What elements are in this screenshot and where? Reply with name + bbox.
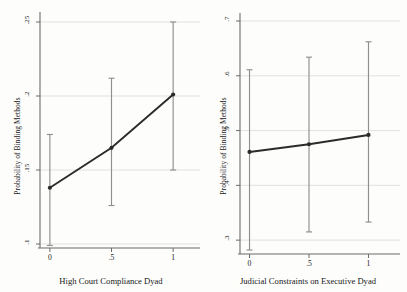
data-point-marker bbox=[109, 146, 113, 150]
x-axis-title-left: High Court Compliance Dyad bbox=[0, 276, 204, 286]
y-tick-label: .4 bbox=[220, 179, 234, 187]
plot-area-left bbox=[0, 0, 204, 292]
x-tick-label: .5 bbox=[306, 259, 312, 268]
data-point-marker bbox=[247, 150, 251, 154]
data-point-marker bbox=[171, 92, 175, 96]
x-axis-title-right: Judicial Constraints on Executive Dyad bbox=[203, 276, 407, 286]
y-tick-label: .1 bbox=[20, 238, 34, 246]
data-point-marker bbox=[366, 133, 370, 137]
x-tick-label: 0 bbox=[48, 253, 52, 262]
y-axis-title-right: Probability of Binding Methods bbox=[219, 66, 228, 226]
y-tick-label: .3 bbox=[220, 234, 234, 242]
chart-panel-left: Probability of Binding Methods High Cour… bbox=[0, 0, 204, 292]
data-point-marker bbox=[48, 186, 52, 190]
plot-area-right bbox=[203, 0, 407, 292]
x-tick-label: 1 bbox=[171, 253, 175, 262]
y-tick-label: .15 bbox=[20, 164, 34, 172]
y-tick-label: .6 bbox=[220, 70, 234, 78]
data-point-marker bbox=[307, 142, 311, 146]
chart-panel-right: Probability of Binding Methods Judicial … bbox=[203, 0, 407, 292]
y-tick-label: .5 bbox=[220, 125, 234, 133]
figure-container: Probability of Binding Methods High Cour… bbox=[0, 0, 407, 292]
x-tick-label: .5 bbox=[109, 253, 115, 262]
y-tick-label: .25 bbox=[20, 16, 34, 24]
x-tick-label: 1 bbox=[367, 259, 371, 268]
y-tick-label: .2 bbox=[20, 90, 34, 98]
x-tick-label: 0 bbox=[248, 259, 252, 268]
y-tick-label: .7 bbox=[220, 15, 234, 23]
